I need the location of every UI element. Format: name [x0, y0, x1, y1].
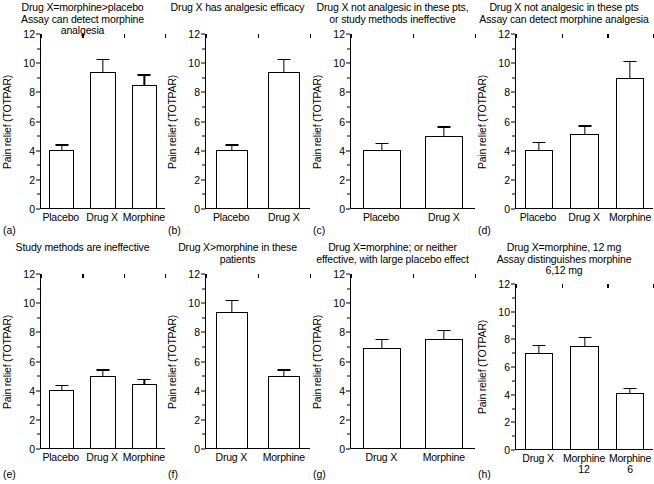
error-bar — [381, 340, 382, 349]
bar-group — [41, 274, 165, 448]
y-axis-label-text: Pain relief (TOTPAR) — [1, 314, 13, 408]
error-bar — [61, 386, 62, 391]
bar — [216, 150, 248, 208]
error-bar — [381, 144, 382, 151]
bar-slot — [607, 284, 653, 449]
bar-slot — [562, 284, 608, 449]
panel-g: Drug X=morphine; or neither effective, w… — [310, 240, 475, 484]
x-tick-label: Morphine — [123, 452, 165, 463]
y-axis-label-text: Pain relief (TOTPAR) — [311, 74, 323, 168]
y-tick-label: 6 — [29, 116, 35, 128]
panel-a-letter: (a) — [3, 224, 16, 236]
panel-g-y-axis-ticks: 024681012 — [324, 274, 350, 449]
y-tick-label: 12 — [188, 268, 200, 280]
bar — [616, 393, 644, 449]
panel-a: Drug X=morphine>placebo Assay can detect… — [0, 0, 165, 240]
bar-group — [516, 34, 653, 208]
bar — [49, 390, 75, 448]
panel-d-y-axis-ticks: 024681012 — [489, 34, 515, 209]
x-tick-label: Drug X — [515, 453, 561, 475]
y-tick-label: 10 — [188, 57, 200, 69]
error-bar — [443, 331, 444, 340]
panel-e-letter: (e) — [3, 468, 16, 480]
y-tick-label: 0 — [339, 203, 345, 215]
error-bar-cap — [376, 339, 389, 340]
error-bar-cap — [277, 59, 290, 60]
y-axis-label-text: Pain relief (TOTPAR) — [166, 74, 178, 168]
bar-slot — [124, 274, 165, 448]
y-tick-label: 8 — [194, 86, 200, 98]
x-tick-mark — [413, 34, 414, 38]
panel-a-plot-area — [40, 34, 165, 209]
panel-e-y-axis-label: Pain relief (TOTPAR) — [0, 274, 14, 449]
bar — [425, 339, 463, 448]
y-tick-label: 2 — [504, 174, 510, 186]
x-tick-mark — [413, 274, 414, 278]
y-axis-label-text: Pain relief (TOTPAR) — [1, 74, 13, 168]
bar-slot — [607, 34, 653, 208]
error-bar — [283, 371, 284, 377]
y-tick-label: 2 — [339, 174, 345, 186]
y-tick-label: 12 — [188, 28, 200, 40]
panel-f-x-axis-labels: Drug XMorphine — [205, 452, 310, 463]
error-bar-cap — [578, 125, 591, 126]
y-tick-label: 2 — [29, 174, 35, 186]
y-tick-label: 2 — [339, 414, 345, 426]
bar-slot — [258, 34, 310, 208]
x-tick-label: Morphine — [258, 452, 311, 463]
panel-d-plot-area — [515, 34, 653, 209]
bar-slot — [413, 34, 475, 208]
y-tick-label: 0 — [29, 203, 35, 215]
error-bar-cap — [277, 369, 290, 370]
y-tick-label: 8 — [194, 326, 200, 338]
x-tick-label: Placebo — [515, 212, 561, 223]
bar — [132, 384, 158, 448]
panel-c-letter: (c) — [313, 224, 325, 236]
bar-slot — [82, 274, 123, 448]
panel-c-x-axis-labels: PlaceboDrug X — [350, 212, 475, 223]
x-tick-mark — [516, 34, 517, 38]
x-tick-mark — [82, 274, 83, 278]
panel-a-y-axis-label: Pain relief (TOTPAR) — [0, 34, 14, 209]
y-tick-label: 4 — [29, 385, 35, 397]
y-tick-label: 0 — [194, 443, 200, 455]
error-bar — [231, 146, 232, 151]
y-tick-label: 6 — [194, 356, 200, 368]
y-tick-label: 0 — [504, 444, 510, 456]
x-tick-label: Morphine 12 — [561, 453, 607, 475]
x-tick-label: Drug X — [81, 212, 122, 223]
x-tick-mark — [41, 34, 42, 38]
bar-slot — [41, 34, 82, 208]
x-tick-mark — [607, 34, 608, 38]
bar-group — [351, 34, 475, 208]
bar — [570, 134, 598, 208]
bar — [570, 346, 598, 449]
bar — [90, 376, 116, 449]
bar — [132, 85, 158, 208]
bar-slot — [206, 34, 258, 208]
x-tick-mark — [351, 34, 352, 38]
panel-h-y-axis-label: Pain relief (TOTPAR) — [475, 284, 489, 450]
y-tick-label: 10 — [333, 297, 345, 309]
panel-h-y-axis-ticks: 024681012 — [489, 284, 515, 450]
panel-c-plot-area — [350, 34, 475, 209]
y-tick-label: 6 — [29, 356, 35, 368]
y-tick-label: 10 — [498, 306, 510, 318]
bar — [268, 72, 300, 208]
panel-a-x-axis-labels: PlaceboDrug XMorphine — [40, 212, 165, 223]
panel-f: Drug X>morphine in these patientsPain re… — [165, 240, 310, 484]
y-tick-label: 0 — [29, 443, 35, 455]
y-tick-label: 10 — [333, 57, 345, 69]
panel-b-plot: Pain relief (TOTPAR)024681012 — [165, 34, 310, 209]
y-axis-label-text: Pain relief (TOTPAR) — [476, 320, 488, 414]
panel-c-y-axis-label: Pain relief (TOTPAR) — [310, 34, 324, 209]
x-tick-label: Morphine — [607, 212, 653, 223]
panel-b-y-axis-label: Pain relief (TOTPAR) — [165, 34, 179, 209]
error-bar — [102, 60, 103, 72]
y-tick-label: 10 — [188, 297, 200, 309]
bar-group — [206, 274, 310, 448]
y-tick-label: 10 — [23, 57, 35, 69]
x-axis-ticks — [516, 284, 653, 288]
x-axis-ticks — [351, 34, 475, 38]
